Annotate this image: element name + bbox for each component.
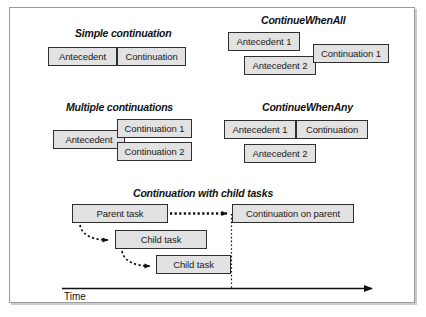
box-simple-continuation: Continuation: [117, 47, 186, 66]
box-whenany-continuation: Continuation: [296, 120, 368, 139]
box-child-task-1: Child task: [115, 230, 207, 249]
box-multiple-continuation-2: Continuation 2: [117, 142, 192, 161]
section-title-continuation-with-child-tasks: Continuation with child tasks: [133, 187, 273, 199]
box-whenall-antecedent-2: Antecedent 2: [244, 56, 316, 75]
box-multiple-continuation-1: Continuation 1: [117, 119, 192, 138]
time-axis-label: Time: [64, 291, 86, 302]
section-title-continue-when-any: ContinueWhenAny: [262, 101, 353, 113]
box-whenany-antecedent-1: Antecedent 1: [224, 120, 296, 139]
section-title-simple-continuation: Simple continuation: [75, 27, 172, 39]
box-whenall-continuation-1: Continuation 1: [313, 44, 389, 63]
figure-container: Simple continuation Antecedent Continuat…: [0, 0, 426, 317]
box-continuation-on-parent: Continuation on parent: [232, 204, 354, 223]
box-whenall-antecedent-1: Antecedent 1: [228, 32, 300, 51]
section-title-multiple-continuations: Multiple continuations: [66, 101, 173, 113]
box-child-task-2: Child task: [156, 255, 231, 274]
box-parent-task: Parent task: [72, 204, 168, 223]
box-simple-antecedent: Antecedent: [48, 47, 117, 66]
box-whenany-antecedent-2: Antecedent 2: [244, 144, 316, 163]
box-multiple-antecedent: Antecedent: [53, 130, 125, 149]
section-title-continue-when-all: ContinueWhenAll: [261, 14, 346, 26]
